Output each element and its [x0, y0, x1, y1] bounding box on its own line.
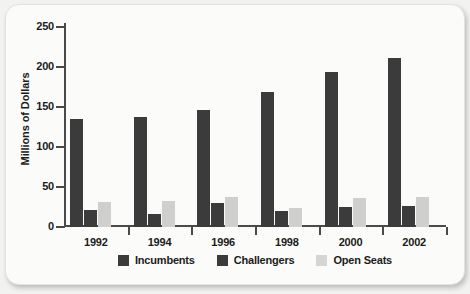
y-tick-label: 250	[6, 20, 54, 32]
y-tick-mark	[56, 66, 65, 68]
bar	[70, 119, 83, 227]
bar	[416, 197, 429, 227]
bar	[275, 211, 288, 227]
legend-label: Challengers	[234, 254, 295, 266]
bar	[225, 197, 238, 227]
bar	[162, 201, 175, 227]
x-tick-label: 2000	[319, 236, 383, 248]
bar	[98, 202, 111, 227]
bar-chart: Millions of Dollars 250200150100500 1992…	[6, 5, 464, 284]
legend-item: Challengers	[217, 254, 295, 266]
y-tick-mark	[56, 106, 65, 108]
bar	[211, 203, 224, 227]
bar	[148, 214, 161, 227]
bar	[339, 207, 352, 227]
legend-item: Open Seats	[316, 254, 392, 266]
x-tick-label: 2002	[382, 236, 446, 248]
y-tick-mark	[56, 26, 65, 28]
x-tick-mark	[446, 227, 448, 235]
legend-swatch-icon	[316, 255, 327, 266]
bar	[134, 117, 147, 227]
y-axis-line	[64, 23, 66, 227]
x-tick-label: 1998	[255, 236, 319, 248]
x-tick-mark	[382, 227, 384, 235]
bar	[261, 92, 274, 227]
bar	[84, 210, 97, 227]
x-tick-label: 1996	[191, 236, 255, 248]
y-tick-mark	[56, 186, 65, 188]
y-tick-label: 150	[6, 100, 54, 112]
x-tick-mark	[255, 227, 257, 235]
legend-item: Incumbents	[118, 254, 195, 266]
y-tick-mark	[56, 146, 65, 148]
legend-swatch-icon	[217, 255, 228, 266]
chart-card: Millions of Dollars 250200150100500 1992…	[5, 4, 465, 285]
x-tick-mark	[128, 227, 130, 235]
screenshot-root: Millions of Dollars 250200150100500 1992…	[0, 0, 470, 294]
chart-legend: IncumbentsChallengersOpen Seats	[64, 254, 446, 266]
y-tick-label: 100	[6, 140, 54, 152]
bar	[325, 72, 338, 227]
bar	[353, 198, 366, 227]
legend-swatch-icon	[118, 255, 129, 266]
y-axis-title: Millions of Dollars	[19, 54, 31, 184]
y-tick-label: 0	[6, 220, 54, 232]
x-tick-mark	[319, 227, 321, 235]
legend-label: Open Seats	[333, 254, 392, 266]
y-tick-label: 200	[6, 60, 54, 72]
bar	[402, 206, 415, 227]
y-tick-label: 50	[6, 180, 54, 192]
bar	[388, 58, 401, 227]
x-tick-label: 1992	[64, 236, 128, 248]
x-tick-mark	[191, 227, 193, 235]
x-tick-label: 1994	[128, 236, 192, 248]
bar	[289, 208, 302, 227]
bar	[197, 110, 210, 227]
legend-label: Incumbents	[135, 254, 195, 266]
y-tick-mark	[56, 226, 65, 228]
